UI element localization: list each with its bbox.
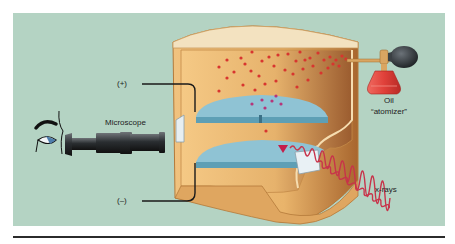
microscope-port — [176, 115, 184, 142]
caption-divider — [13, 236, 445, 238]
oil-label: Oil — [378, 97, 400, 105]
oil-drop-apparatus — [0, 0, 455, 244]
atomizer-label: “atomizer” — [362, 108, 416, 116]
xrays-label: x-rays — [375, 186, 397, 194]
negative-terminal-label: (–) — [117, 197, 127, 205]
observer-eye — [36, 111, 63, 154]
microscope — [65, 132, 165, 156]
positive-terminal-label: (+) — [117, 80, 127, 88]
microscope-label: Microscope — [105, 119, 146, 127]
atomizer-bulb — [390, 46, 418, 68]
chamber-lid — [173, 26, 358, 48]
